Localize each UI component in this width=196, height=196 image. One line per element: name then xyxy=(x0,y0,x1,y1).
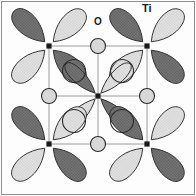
oxygen-top-mid xyxy=(91,39,106,54)
oxygen-left-mid xyxy=(42,89,57,104)
ti-center xyxy=(95,93,100,98)
lattice-canvas xyxy=(0,0,196,196)
titanium-label: Ti xyxy=(142,3,152,14)
oxygen-bottom-mid xyxy=(91,137,106,152)
ti-bottom-right xyxy=(144,141,149,146)
oxygen-right-mid xyxy=(140,89,155,104)
orbital-lattice-figure: O Ti xyxy=(0,0,196,196)
ti-top-left xyxy=(46,43,51,48)
ti-top-right xyxy=(144,43,149,48)
oxygen-label: O xyxy=(94,17,102,27)
ti-bottom-left xyxy=(46,141,51,146)
